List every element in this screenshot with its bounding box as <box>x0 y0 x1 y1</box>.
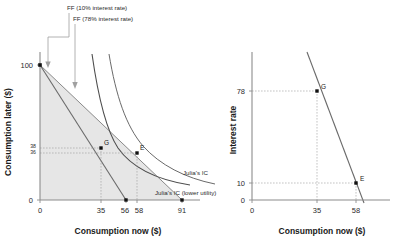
left-xtick-label-35: 35 <box>97 206 105 215</box>
annotation-ff-78-percent: FF (78% interest rate) <box>73 15 133 22</box>
annotation-arrowhead-ff-78-percent <box>72 82 77 89</box>
marker-x-intercept-56 <box>124 198 127 201</box>
curve-label-julias-ic-lower-utility: Julia's IC (lower utility) <box>155 189 216 196</box>
right-point-label-e: E <box>360 175 365 182</box>
right-ytick-label-0: 0 <box>241 196 245 205</box>
left-ytick-label-36: 36 <box>30 149 36 155</box>
left-panel: G E 0 35 56 58 91 100 38 36 0 Consumptio… <box>3 4 216 236</box>
left-point-label-e: E <box>140 144 145 151</box>
two-panel-economics-figure: G E 0 35 56 58 91 100 38 36 0 Consumptio… <box>0 0 395 243</box>
left-point-label-g: G <box>104 139 109 146</box>
left-xtick-label-0: 0 <box>38 206 42 215</box>
left-xtick-label-56: 56 <box>121 206 129 215</box>
left-y-axis-title: Consumption later ($) <box>3 88 13 176</box>
right-x-axis-title: Consumption now ($) <box>279 226 366 236</box>
right-y-axis-title: Interest rate <box>228 105 238 154</box>
right-marker-point-e <box>354 181 357 184</box>
right-xtick-label-0: 0 <box>250 206 254 215</box>
annotation-ff-10-percent: FF (10% interest rate) <box>67 4 127 11</box>
marker-y-intercept-100 <box>38 63 42 67</box>
right-xtick-label-58: 58 <box>352 206 360 215</box>
right-marker-point-g <box>315 89 318 92</box>
right-ytick-label-78: 78 <box>237 87 245 96</box>
marker-x-intercept-91 <box>180 198 183 201</box>
right-ytick-label-10: 10 <box>237 179 245 188</box>
left-ytick-label-100: 100 <box>20 61 33 70</box>
credit-demand-line <box>307 52 364 203</box>
left-xtick-label-58: 58 <box>135 206 143 215</box>
right-point-label-g: G <box>321 83 326 90</box>
annotation-arrow-ff-10-percent <box>48 13 69 62</box>
right-xtick-label-35: 35 <box>313 206 321 215</box>
annotation-arrowhead-ff-10-percent <box>45 62 50 69</box>
marker-point-g <box>99 146 102 149</box>
curve-label-julias-ic: Julia's IC <box>183 169 208 176</box>
left-xtick-label-91: 91 <box>178 206 186 215</box>
left-ytick-label-0: 0 <box>29 196 33 205</box>
marker-point-e <box>135 151 138 154</box>
left-x-axis-title: Consumption now ($) <box>75 226 162 236</box>
right-panel: G E 78 10 0 0 35 58 Consumption now ($) … <box>228 52 390 236</box>
